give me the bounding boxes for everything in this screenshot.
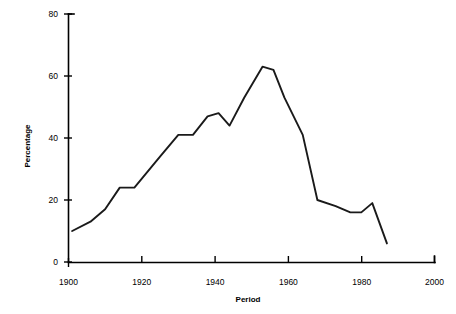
- x-tick-label-1900: 1900: [59, 277, 78, 287]
- x-axis-tick-labels: 1900 1920 1940 1960 1980 2000: [59, 277, 444, 287]
- x-tick-label-1940: 1940: [206, 277, 225, 287]
- chart-container: 0 20 40 60 80 1900 1920 1940 1960 1980 2…: [0, 0, 456, 314]
- y-tick-label-0: 0: [53, 257, 58, 267]
- y-tick-label-20: 20: [49, 195, 59, 205]
- x-tick-label-1920: 1920: [132, 277, 151, 287]
- x-axis-title: Period: [236, 295, 261, 304]
- x-tick-label-2000: 2000: [425, 277, 444, 287]
- x-axis-ticks: [69, 256, 435, 267]
- y-axis-tick-labels: 0 20 40 60 80: [49, 9, 59, 267]
- y-axis-title: Percentage: [23, 124, 32, 168]
- x-tick-label-1980: 1980: [352, 277, 371, 287]
- y-tick-label-40: 40: [49, 133, 59, 143]
- line-chart: 0 20 40 60 80 1900 1920 1940 1960 1980 2…: [0, 0, 456, 314]
- series-line-percentage: [72, 67, 387, 244]
- x-tick-label-1960: 1960: [279, 277, 298, 287]
- y-tick-label-80: 80: [49, 9, 59, 19]
- y-tick-label-60: 60: [49, 71, 59, 81]
